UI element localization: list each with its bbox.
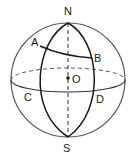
sphere-diagram: N S O A B C D <box>0 0 130 156</box>
label-south: S <box>63 142 70 154</box>
label-c: C <box>24 91 32 103</box>
center-point <box>66 76 70 80</box>
meridian-left <box>40 23 68 137</box>
label-a: A <box>31 36 39 48</box>
label-north: N <box>64 5 72 17</box>
label-center: O <box>72 73 81 85</box>
label-b: B <box>94 52 101 64</box>
arc-AB <box>40 46 92 58</box>
label-d: D <box>96 93 104 105</box>
